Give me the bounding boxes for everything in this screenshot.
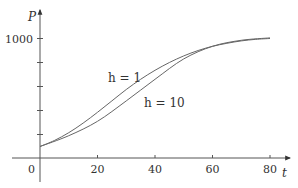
chart-canvas: 20406080 P t 0 1000 h = 1 h = 10 <box>0 0 298 188</box>
curve-label-h10: h = 10 <box>144 96 185 110</box>
curve-label-h1: h = 1 <box>108 71 141 85</box>
x-tick-label: 20 <box>91 163 105 176</box>
x-tick-label: 80 <box>263 163 277 176</box>
curve-h-10 <box>40 38 270 147</box>
origin-label: 0 <box>28 163 35 176</box>
y-axis-label: P <box>27 10 37 24</box>
curve-h-1 <box>40 39 270 147</box>
x-axis-label: t <box>282 166 287 180</box>
x-tick-label: 40 <box>148 163 162 176</box>
x-tick-label: 60 <box>206 163 220 176</box>
y-tick-label-1000: 1000 <box>5 33 33 46</box>
